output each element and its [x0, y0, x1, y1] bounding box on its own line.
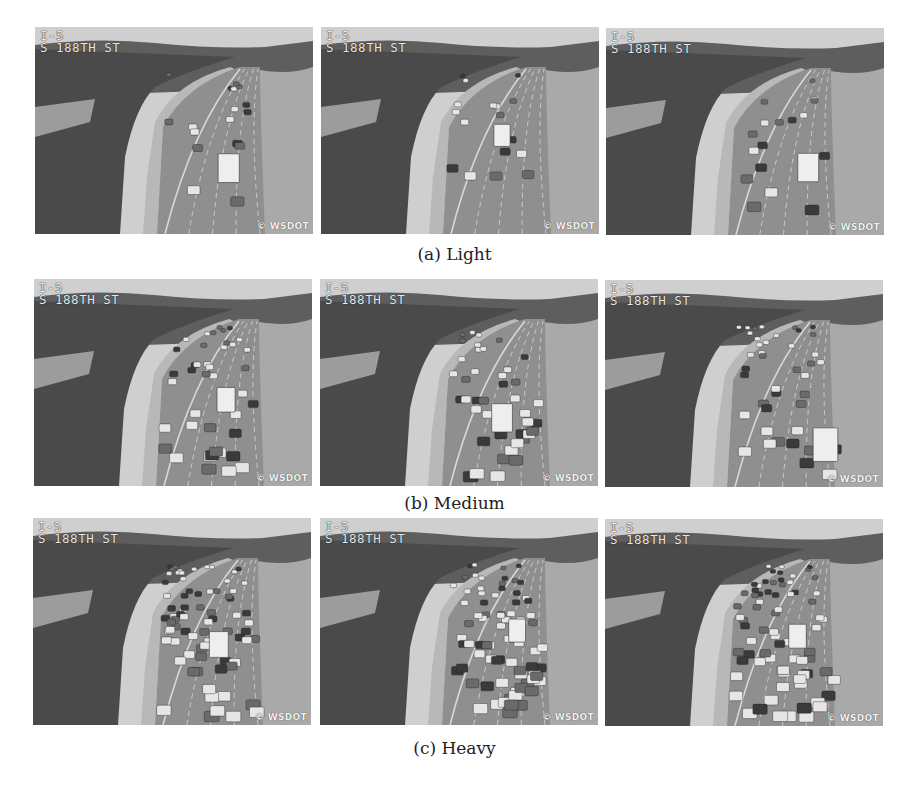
route-label: I-5 S 188TH ST	[39, 282, 119, 306]
wsdot-credit: © WSDOT	[257, 221, 309, 231]
traffic-density-figure: I-5 S 188TH ST © WSDOT I-5 S 188TH ST © …	[0, 0, 909, 797]
caption-light: (a) Light	[0, 244, 909, 264]
highway-scene	[606, 28, 884, 235]
wsdot-credit: © WSDOT	[542, 712, 594, 722]
highway-scene	[33, 518, 311, 725]
wsdot-credit: © WSDOT	[256, 473, 308, 483]
route-label: I-5 S 188TH ST	[40, 30, 120, 54]
highway-scene	[605, 280, 883, 487]
camera-image-medium-2: I-5 S 188TH ST © WSDOT	[320, 279, 598, 486]
wsdot-credit: © WSDOT	[542, 473, 594, 483]
route-label: I-5 S 188TH ST	[611, 31, 691, 55]
camera-image-light-2: I-5 S 188TH ST © WSDOT	[321, 27, 599, 234]
highway-scene	[605, 519, 883, 726]
highway-scene	[320, 279, 598, 486]
highway-scene	[35, 27, 313, 234]
highway-scene	[321, 27, 599, 234]
wsdot-credit: © WSDOT	[255, 712, 307, 722]
route-label: I-5 S 188TH ST	[610, 283, 690, 307]
highway-scene	[34, 279, 312, 486]
wsdot-credit: © WSDOT	[543, 221, 595, 231]
caption-medium: (b) Medium	[0, 493, 909, 513]
camera-image-heavy-2: I-5 S 188TH ST © WSDOT	[320, 518, 598, 725]
camera-image-medium-1: I-5 S 188TH ST © WSDOT	[34, 279, 312, 486]
highway-scene	[320, 518, 598, 725]
wsdot-credit: © WSDOT	[828, 222, 880, 232]
route-label: I-5 S 188TH ST	[325, 521, 405, 545]
caption-heavy: (c) Heavy	[0, 738, 909, 758]
camera-image-light-1: I-5 S 188TH ST © WSDOT	[35, 27, 313, 234]
camera-image-medium-3: I-5 S 188TH ST © WSDOT	[605, 280, 883, 487]
route-label: I-5 S 188TH ST	[610, 522, 690, 546]
route-label: I-5 S 188TH ST	[325, 282, 405, 306]
route-label: I-5 S 188TH ST	[326, 30, 406, 54]
camera-image-heavy-3: I-5 S 188TH ST © WSDOT	[605, 519, 883, 726]
route-label: I-5 S 188TH ST	[38, 521, 118, 545]
wsdot-credit: © WSDOT	[827, 713, 879, 723]
camera-image-light-3: I-5 S 188TH ST © WSDOT	[606, 28, 884, 235]
camera-image-heavy-1: I-5 S 188TH ST © WSDOT	[33, 518, 311, 725]
wsdot-credit: © WSDOT	[827, 474, 879, 484]
